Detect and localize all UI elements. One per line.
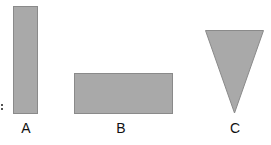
shape-b-wide-rectangle [75,74,173,114]
label-b: B [116,121,125,135]
label-a: A [21,121,30,135]
shape-a-tall-rectangle [14,7,38,114]
label-c: C [230,121,240,135]
shape-c-inverted-triangle [206,31,264,114]
